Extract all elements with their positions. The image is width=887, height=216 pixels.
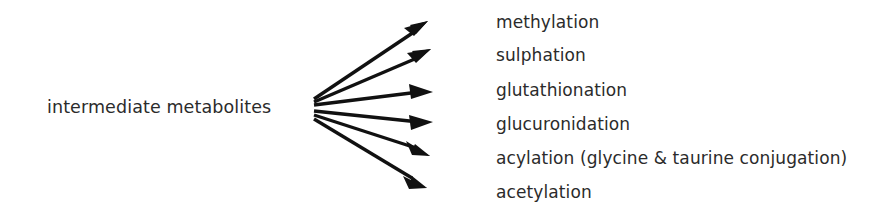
metabolism-diagram: intermediate metabolites methylation sul… bbox=[0, 0, 887, 216]
product-label-glucuronidation: glucuronidation bbox=[496, 116, 630, 133]
product-label-acylation: acylation (glycine & taurine conjugation… bbox=[496, 150, 847, 167]
product-label-glutathionation: glutathionation bbox=[496, 82, 627, 99]
product-label-acetylation: acetylation bbox=[496, 184, 592, 201]
product-label-list: methylation sulphation glutathionation g… bbox=[0, 0, 887, 216]
product-label-methylation: methylation bbox=[496, 14, 599, 31]
product-label-sulphation: sulphation bbox=[496, 47, 586, 64]
